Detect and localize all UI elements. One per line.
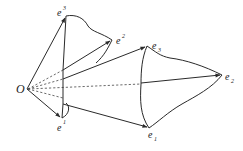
label-e-sub3: e 3	[152, 40, 161, 53]
svg-text:2: 2	[122, 33, 125, 39]
label-origin: O	[16, 82, 25, 96]
edge-e-sup2-down	[96, 40, 112, 63]
svg-text:e: e	[57, 7, 62, 18]
label-e-sub2: e 2	[225, 71, 234, 84]
edge-e-sub3-e-sub1	[141, 46, 149, 128]
vector-to-e-sub3	[63, 47, 145, 79]
edge-e-sup3-e-sup2	[66, 15, 112, 40]
svg-text:3: 3	[62, 5, 66, 11]
svg-text:2: 2	[231, 78, 234, 84]
svg-text:e: e	[148, 129, 153, 140]
svg-text:1: 1	[154, 136, 157, 142]
svg-text:e: e	[57, 122, 62, 133]
vector-to-e-sub1	[63, 104, 147, 127]
vector-diagram: O e 3 e 2 e 3 e 2 e 1 e 1	[0, 0, 243, 151]
svg-text:e: e	[152, 40, 157, 51]
vector-o-to-e-sup1	[27, 89, 60, 117]
vector-o-to-e-sup3	[27, 18, 65, 89]
label-e-sup2: e 2	[116, 33, 125, 46]
edge-e-sub2-e-sub1	[149, 75, 222, 128]
dashed-lines	[28, 70, 141, 98]
label-e-sup1: e 1	[57, 119, 66, 133]
svg-text:e: e	[116, 35, 121, 46]
label-e-sub1: e 1	[148, 129, 157, 142]
svg-text:e: e	[225, 71, 230, 82]
vector-to-e-sub2	[141, 75, 220, 83]
svg-text:1: 1	[63, 119, 66, 125]
edge-e-sup3-e-sup1	[62, 16, 66, 118]
label-e-sup3: e 3	[57, 5, 66, 18]
svg-text:3: 3	[157, 47, 161, 53]
